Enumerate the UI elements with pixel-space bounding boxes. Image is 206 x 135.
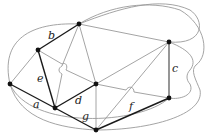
node-n7	[94, 82, 99, 87]
edge-n2-n6	[62, 24, 79, 66]
label-c: c	[172, 62, 178, 75]
label-a: a	[33, 98, 40, 111]
edge-n2-n6-jump	[55, 66, 62, 108]
node-n5	[167, 96, 172, 101]
node-n4	[167, 40, 172, 45]
node-n3	[36, 48, 41, 53]
label-d: d	[75, 94, 82, 107]
label-e: e	[37, 72, 44, 85]
node-n8	[94, 128, 99, 133]
edge-n3-n1	[10, 50, 38, 84]
edge-g	[55, 108, 96, 130]
label-b: b	[48, 29, 55, 42]
edge-b	[38, 24, 79, 50]
outer-arc-big	[79, 5, 204, 130]
edge-n2-n4	[79, 24, 169, 42]
label-f: f	[128, 100, 135, 113]
label-g: g	[82, 110, 89, 123]
graph-diagram: b e a d g f c	[0, 0, 206, 135]
graph-svg: b e a d g f c	[0, 0, 206, 135]
node-n1	[8, 82, 13, 87]
node-n6	[53, 106, 58, 111]
node-n2	[77, 22, 82, 27]
edge-n2-n7	[79, 24, 96, 84]
edge-n4-n7	[96, 42, 169, 84]
